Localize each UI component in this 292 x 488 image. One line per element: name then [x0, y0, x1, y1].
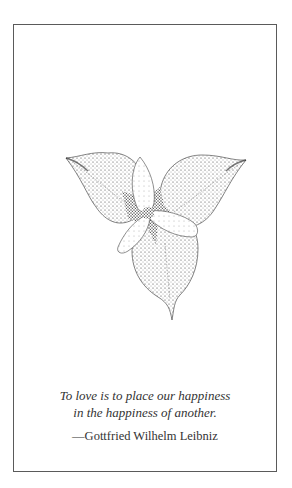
- petal-top: [132, 157, 154, 212]
- quote-line-2: in the happiness of another.: [14, 404, 276, 421]
- flower-center: [142, 207, 154, 219]
- quote-line-1: To love is to place our happiness: [14, 387, 276, 404]
- quote-attribution: —Gottfried Wilhelm Leibniz: [14, 429, 276, 444]
- quote-card: To love is to place our happiness in the…: [13, 24, 277, 472]
- trillium-illustration: [52, 149, 252, 321]
